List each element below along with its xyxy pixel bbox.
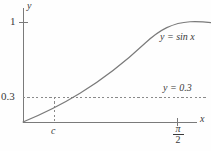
x-axis-label: x bbox=[200, 114, 204, 124]
curve-annotation-y-equals-sin-x: y = sin x bbox=[160, 32, 195, 42]
fraction-denominator-two: 2 bbox=[170, 135, 186, 145]
x-tick-label-c: c bbox=[51, 126, 55, 136]
x-tick-label-pi-over-two: π 2 bbox=[170, 124, 186, 145]
sine-curve-figure: y x 1 0.3 c π 2 y = sin x y = 0.3 bbox=[0, 0, 211, 151]
y-axis-label: y bbox=[27, 1, 31, 11]
y-tick-label-one: 1 bbox=[10, 16, 16, 27]
fraction-numerator-pi: π bbox=[170, 124, 186, 134]
line-annotation-y-equals-0.3: y = 0.3 bbox=[163, 83, 192, 93]
y-tick-label-zero-point-three: 0.3 bbox=[1, 91, 15, 102]
